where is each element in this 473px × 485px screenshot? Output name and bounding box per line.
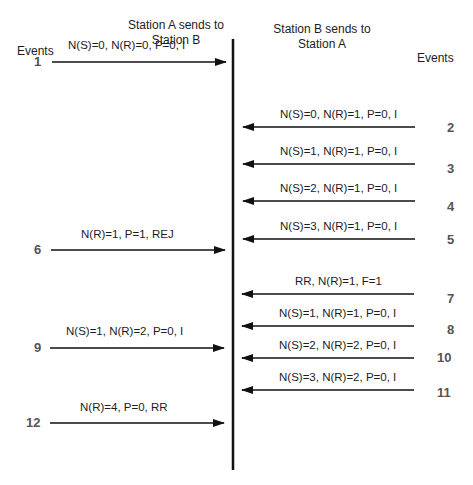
event-number-5: 5: [447, 232, 454, 247]
frame-label-event-5: N(S)=3, N(R)=1, P=0, I: [280, 220, 397, 232]
frame-label-event-4: N(S)=2, N(R)=1, P=0, I: [280, 182, 397, 194]
frame-label-event-10: N(S)=2, N(R)=2, P=0, I: [279, 339, 396, 351]
frame-label-event-3: N(S)=1, N(R)=1, P=0, I: [280, 145, 397, 157]
event-number-2: 2: [447, 120, 454, 135]
station-b-header: Station B sends to Station A: [262, 22, 382, 52]
event-number-7: 7: [447, 291, 454, 306]
station-b-header-line2: Station A: [262, 37, 382, 52]
event-number-9: 9: [34, 340, 41, 355]
event-number-8: 8: [447, 322, 454, 337]
events-right-label: Events: [417, 51, 454, 65]
event-number-1: 1: [34, 54, 41, 69]
event-number-12: 12: [26, 415, 40, 430]
frame-label-event-9: N(S)=1, N(R)=2, P=0, I: [66, 325, 183, 337]
frame-label-event-7: RR, N(R)=1, F=1: [295, 275, 382, 287]
sequence-diagram-canvas: [0, 0, 473, 485]
event-number-3: 3: [447, 161, 454, 176]
frame-label-event-6: N(R)=1, P=1, REJ: [81, 228, 174, 240]
event-number-10: 10: [437, 350, 451, 365]
frame-label-event-1: N(S)=0, N(R)=0, P=0, I: [68, 39, 185, 51]
station-b-header-line1: Station B sends to: [262, 22, 382, 37]
frame-label-event-12: N(R)=4, P=0, RR: [80, 401, 168, 413]
event-number-4: 4: [447, 199, 454, 214]
frame-label-event-11: N(S)=3, N(R)=2, P=0, I: [279, 371, 396, 383]
frame-label-event-2: N(S)=0, N(R)=1, P=0, I: [280, 108, 397, 120]
station-a-header-line1: Station A sends to: [96, 18, 256, 33]
event-number-11: 11: [437, 385, 451, 400]
event-number-6: 6: [34, 242, 41, 257]
frame-label-event-8: N(S)=1, N(R)=1, P=0, I: [279, 307, 396, 319]
